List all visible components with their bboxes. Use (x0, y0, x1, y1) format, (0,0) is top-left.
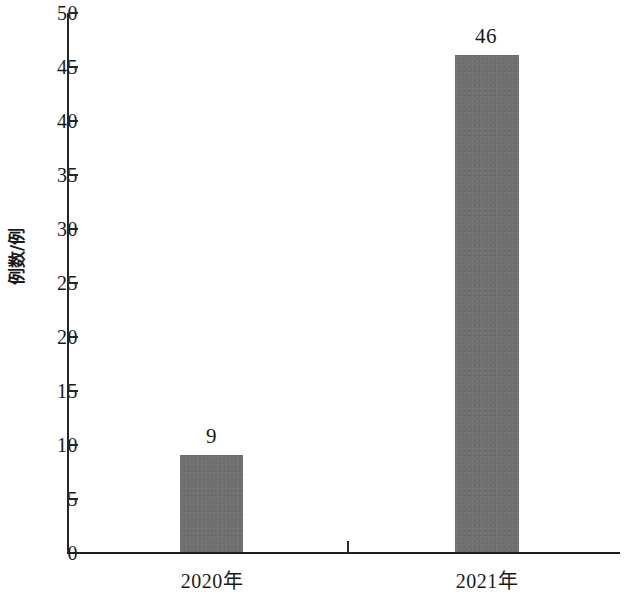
y-axis-line (67, 13, 69, 554)
x-axis-midpoint-tick (347, 541, 349, 553)
bar-2020[interactable] (180, 455, 243, 552)
x-tick-label-2021: 2021年 (431, 570, 543, 592)
y-tick-mark-20 (69, 336, 78, 338)
y-tick-mark-40 (69, 120, 78, 122)
bar-value-2020: 9 (180, 426, 243, 447)
y-tick-mark-45 (69, 66, 78, 68)
bar-value-2021: 46 (454, 26, 518, 47)
y-tick-mark-5 (69, 498, 78, 500)
bar-chart-figure: 例数/例 50 45 40 35 30 25 20 15 10 5 0 (0, 0, 624, 598)
x-axis-line (67, 552, 620, 554)
y-tick-mark-50 (69, 12, 78, 14)
bar-2021[interactable] (455, 55, 519, 552)
y-tick-mark-35 (69, 174, 78, 176)
y-tick-mark-15 (69, 390, 78, 392)
y-tick-mark-30 (69, 228, 78, 230)
y-tick-mark-10 (69, 444, 78, 446)
x-tick-label-2020: 2020年 (156, 570, 268, 592)
y-tick-mark-25 (69, 282, 78, 284)
y-axis-title: 例数/例 (9, 202, 26, 312)
